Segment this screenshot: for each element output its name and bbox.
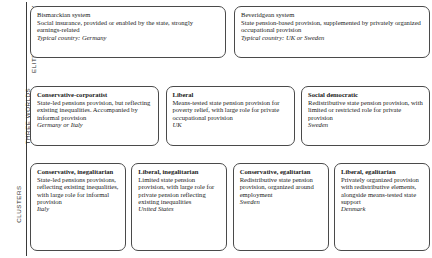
- box-country: United States: [138, 205, 220, 212]
- box-country: Italy: [37, 205, 119, 212]
- box-body: Social insurance, provided or enabled by…: [37, 19, 219, 34]
- box-liberal-inegalitarian: Liberal, inegalitarian Limited state pen…: [131, 163, 227, 251]
- box-body: Privately organized provision with redis…: [341, 176, 423, 206]
- typology-diagram: ELITE PHILOSOPHY THREE WORLDS CLUSTERS B…: [0, 0, 432, 258]
- box-country: Sweden: [240, 198, 322, 205]
- box-title: Conservative-corporatist: [37, 91, 152, 98]
- box-body: Redistributive state pension provision, …: [240, 176, 322, 198]
- box-country: Germany or Italy: [37, 121, 152, 128]
- box-title: Liberal, inegalitarian: [138, 168, 220, 175]
- box-beveridgean-system: Beveridgean system State pension-based p…: [234, 6, 430, 58]
- box-body: State-led pensions provision, but reflec…: [37, 99, 152, 121]
- box-body: Redistributive state pension provision, …: [308, 99, 423, 121]
- box-bismarckian-system: Bismarckian system Social insurance, pro…: [30, 6, 226, 58]
- box-country: Typical country: UK or Sweden: [241, 34, 423, 41]
- box-liberal: Liberal Means-tested state pension provi…: [166, 86, 295, 146]
- row-clusters: Conservative, inegalitarian State-led pe…: [30, 163, 430, 255]
- box-country: Typical country: Germany: [37, 34, 219, 41]
- box-liberal-egalitarian: Liberal, egalitarian Privately organized…: [334, 163, 430, 251]
- row-label-clusters: CLUSTERS: [0, 166, 24, 242]
- box-title: Beveridgean system: [241, 11, 423, 18]
- box-title: Conservative, egalitarian: [240, 168, 322, 175]
- box-body: Limited state pension provision, with la…: [138, 176, 220, 206]
- box-body: State-led pensions provisions, reflectin…: [37, 176, 119, 206]
- box-body: State pension-based provision, supplemen…: [241, 19, 423, 34]
- box-conservative-egalitarian: Conservative, egalitarian Redistributive…: [233, 163, 329, 251]
- box-conservative-inegalitarian: Conservative, inegalitarian State-led pe…: [30, 163, 126, 251]
- box-conservative-corporatist: Conservative-corporatist State-led pensi…: [30, 86, 159, 146]
- row-label-three-worlds: THREE WORLDS: [0, 80, 24, 152]
- box-body: Means-tested state pension provision for…: [173, 99, 288, 121]
- box-country: UK: [173, 121, 288, 128]
- row-elite-philosophy: Bismarckian system Social insurance, pro…: [30, 6, 430, 62]
- box-social-democratic: Social democratic Redistributive state p…: [301, 86, 430, 146]
- box-title: Liberal, egalitarian: [341, 168, 423, 175]
- box-country: Denmark: [341, 205, 423, 212]
- box-title: Bismarckian system: [37, 11, 219, 18]
- box-title: Liberal: [173, 91, 288, 98]
- row-label-elite-philosophy: ELITE PHILOSOPHY: [0, 0, 24, 78]
- box-title: Conservative, inegalitarian: [37, 168, 119, 175]
- row-three-worlds: Conservative-corporatist State-led pensi…: [30, 86, 430, 150]
- box-title: Social democratic: [308, 91, 423, 98]
- box-country: Sweden: [308, 121, 423, 128]
